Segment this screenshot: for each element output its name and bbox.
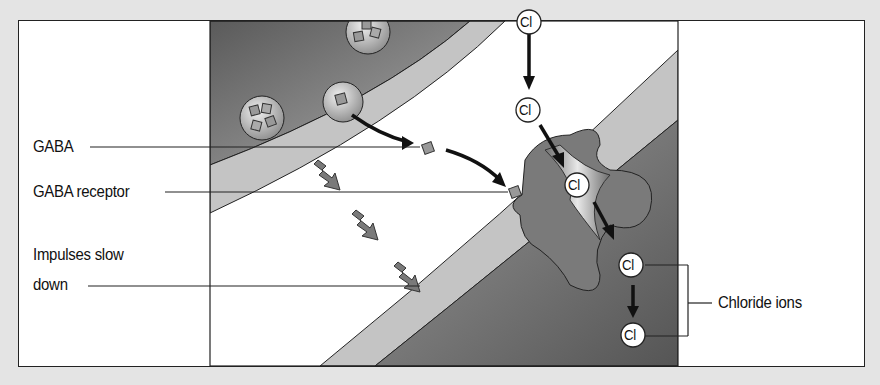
synapse-panel (210, 10, 678, 366)
vesicle-icon (240, 96, 284, 140)
impulses-label-line2: down (33, 275, 68, 295)
chloride-ion-label: Cl (624, 325, 636, 345)
chloride-ion-label: Cl (520, 12, 532, 32)
synapse-illustration (0, 0, 880, 385)
chloride-ion-label: Cl (622, 255, 634, 275)
chloride-ion-label: Cl (519, 100, 531, 120)
gaba-receptor-label: GABA receptor (33, 182, 129, 202)
chloride-ions-label: Chloride ions (718, 293, 802, 313)
impulses-label-line1: Impulses slow (33, 245, 124, 265)
chloride-ion-label: Cl (568, 175, 580, 195)
fusing-vesicle-icon (323, 82, 363, 122)
vesicle-icon (346, 10, 390, 54)
gaba-label: GABA (33, 137, 74, 157)
